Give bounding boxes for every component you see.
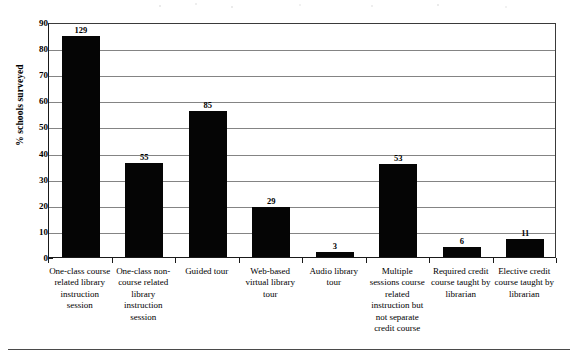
x-category-label-line: Elective credit [490, 266, 560, 277]
bar-value-label: 29 [241, 197, 301, 206]
x-category-label: One-class non-course relatedlibraryinstr… [109, 266, 179, 323]
x-category-label-line: librarian [426, 289, 496, 300]
x-category-label: Web-basedvirtual librarytour [236, 266, 306, 300]
bottom-horizontal-rule [8, 349, 570, 350]
x-category-label-line: One-class course [45, 266, 115, 277]
bar [316, 252, 354, 257]
x-category-label-line: One-class non- [109, 266, 179, 277]
y-tick-label: 10 [8, 227, 48, 236]
bar-value-label: 6 [432, 237, 492, 246]
bar [443, 247, 481, 257]
x-category-label-line: instruction but [363, 300, 433, 311]
x-category-label: Required creditcourse taught bylibrarian [426, 266, 496, 300]
x-tick-mark [556, 258, 557, 263]
x-category-label: Multiplesessions courserelatedinstructio… [363, 266, 433, 334]
bar-value-label: 85 [178, 101, 238, 110]
y-tick-label: 20 [8, 201, 48, 210]
x-tick-mark [112, 258, 113, 263]
x-tick-mark [175, 258, 176, 263]
bar [125, 163, 163, 257]
y-tick-label: 90 [8, 19, 48, 28]
x-category-label-line: sessions course [363, 277, 433, 288]
y-tick-label: 60 [8, 97, 48, 106]
x-category-label-line: librarian [490, 289, 560, 300]
bar [189, 111, 227, 257]
x-category-label-line: course taught by [490, 277, 560, 288]
x-category-label: Elective creditcourse taught bylibrarian [490, 266, 560, 300]
x-tick-mark [302, 258, 303, 263]
scan-artifact [0, 0, 578, 12]
x-tick-mark [429, 258, 430, 263]
x-category-label-line: Web-based [236, 266, 306, 277]
plot-area: 129558529353611 [48, 23, 556, 258]
y-tick-label: 80 [8, 45, 48, 54]
bar [379, 164, 417, 257]
x-category-label-line: course taught by [426, 277, 496, 288]
bar-value-label: 3 [305, 242, 365, 251]
bar-value-label: 129 [51, 26, 111, 35]
x-category-label-line: tour [236, 289, 306, 300]
bar-chart-figure: % schools surveyed 0102030405060708090 1… [0, 0, 578, 361]
y-axis-ticks: 0102030405060708090 [0, 23, 48, 258]
gridline [49, 50, 555, 51]
x-axis-ticks [48, 258, 556, 264]
x-tick-mark [493, 258, 494, 263]
x-tick-mark [48, 258, 49, 263]
y-tick-label: 70 [8, 71, 48, 80]
y-tick-label: 40 [8, 149, 48, 158]
bar-value-label: 11 [495, 229, 555, 238]
bar-value-label: 55 [114, 153, 174, 162]
x-category-label-line: credit course [363, 323, 433, 334]
y-tick-label: 0 [8, 254, 48, 263]
x-category-label: Guided tour [172, 266, 242, 277]
x-category-label-line: Required credit [426, 266, 496, 277]
x-category-label-line: instruction [45, 289, 115, 300]
x-category-label-line: library [109, 289, 179, 300]
x-category-label-line: related library [45, 277, 115, 288]
x-category-label-line: course related [109, 277, 179, 288]
x-category-label-line: not separate [363, 312, 433, 323]
bar [252, 207, 290, 257]
x-category-label-line: session [109, 312, 179, 323]
x-tick-mark [239, 258, 240, 263]
x-category-label-line: Multiple [363, 266, 433, 277]
x-tick-mark [366, 258, 367, 263]
x-category-label: Audio librarytour [299, 266, 369, 289]
x-category-label-line: related [363, 289, 433, 300]
gridline [49, 128, 555, 129]
x-category-label-line: virtual library [236, 277, 306, 288]
x-category-label-line: instruction [109, 300, 179, 311]
x-category-label-line: session [45, 300, 115, 311]
x-category-label-line: tour [299, 277, 369, 288]
gridline [49, 102, 555, 103]
x-axis-category-labels: One-class courserelated libraryinstructi… [48, 266, 556, 348]
bar [506, 239, 544, 257]
y-tick-label: 30 [8, 175, 48, 184]
y-tick-label: 50 [8, 123, 48, 132]
x-category-label-line: Audio library [299, 266, 369, 277]
x-category-label: One-class courserelated libraryinstructi… [45, 266, 115, 312]
gridline [49, 76, 555, 77]
bar-value-label: 53 [368, 154, 428, 163]
x-category-label-line: Guided tour [172, 266, 242, 277]
bar [62, 36, 100, 257]
